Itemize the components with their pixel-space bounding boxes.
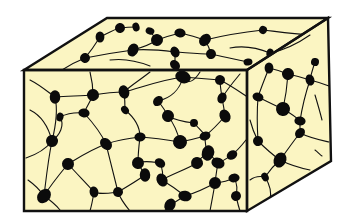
network-node (96, 31, 105, 42)
network-node (50, 90, 61, 103)
network-block-diagram (0, 0, 355, 224)
network-node (265, 62, 274, 73)
diagram-canvas (0, 0, 355, 224)
